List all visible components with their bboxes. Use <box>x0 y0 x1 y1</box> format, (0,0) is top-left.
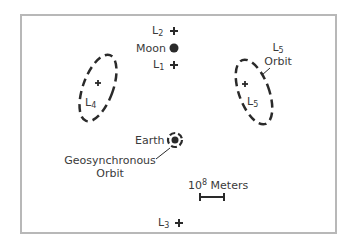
l4-marker-icon <box>95 80 101 86</box>
diagram-canvas <box>0 0 356 247</box>
geo-orbit-leader <box>156 148 170 159</box>
l2-marker-icon <box>170 27 178 35</box>
l1-label: L1 <box>153 59 164 72</box>
l3-label: L3 <box>158 217 169 230</box>
earth-icon <box>172 137 179 144</box>
scale-bar-icon <box>200 193 224 201</box>
moon-label: Moon <box>136 43 166 54</box>
l5-label: L5 <box>247 96 258 109</box>
l3-marker-icon <box>175 219 183 227</box>
geosynchronous-orbit-label: Geosynchronous Orbit <box>64 155 156 179</box>
scale-label: 108 Meters <box>188 179 248 191</box>
l5-orbit-leader <box>262 68 270 75</box>
moon-icon <box>170 44 179 53</box>
l5-orbit-label: L5 Orbit <box>260 42 296 67</box>
l1-marker-icon <box>170 61 178 69</box>
l5-marker-icon <box>242 81 248 87</box>
earth-label: Earth <box>135 135 165 146</box>
l4-orbit-icon <box>72 50 124 126</box>
l2-label: L2 <box>152 25 163 38</box>
l4-label: L4 <box>85 97 96 110</box>
